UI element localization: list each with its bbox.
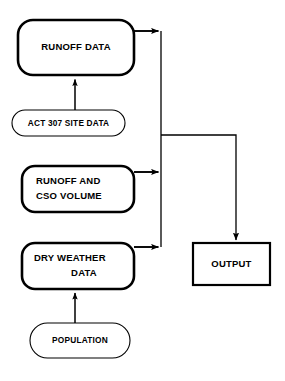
node-shape-output bbox=[193, 243, 270, 285]
node-shape-runoff-and-cso-volume bbox=[22, 166, 134, 212]
connector-bus-to-output bbox=[161, 135, 236, 240]
node-shape-runoff-data bbox=[18, 20, 134, 75]
diagram-canvas: RUNOFF DATA ACT 307 SITE DATA RUNOFF AND… bbox=[0, 0, 285, 381]
diagram-graphics bbox=[0, 0, 285, 381]
node-shape-act-307-site-data bbox=[12, 110, 125, 136]
node-shape-dry-weather-data bbox=[22, 243, 134, 289]
node-shape-population bbox=[30, 323, 130, 358]
